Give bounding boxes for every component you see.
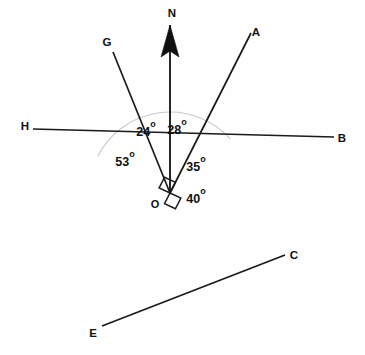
label-point-N: N <box>168 7 176 19</box>
line-E-to-C <box>102 255 285 326</box>
angle-label-53: 53o <box>115 149 135 169</box>
angle-label-24: 24o <box>136 119 156 139</box>
label-point-G: G <box>103 36 112 48</box>
label-point-H: H <box>21 120 29 132</box>
geometry-figure: N G A B C E H O 24o 28o 35o 40o 53o <box>0 0 365 355</box>
label-point-C: C <box>290 249 298 261</box>
label-point-A: A <box>252 26 260 38</box>
bearing-diagram-canvas: N G A B C E H O 24o 28o 35o 40o 53o <box>0 0 365 355</box>
line-H-to-B <box>33 129 334 137</box>
label-point-B: B <box>338 132 346 144</box>
angle-label-35: 35o <box>186 154 206 174</box>
right-angle-square-right <box>165 193 181 209</box>
angle-label-40: 40o <box>186 186 206 206</box>
label-vertex-O: O <box>151 198 160 210</box>
label-point-E: E <box>89 327 97 339</box>
ray-OG <box>113 52 170 193</box>
